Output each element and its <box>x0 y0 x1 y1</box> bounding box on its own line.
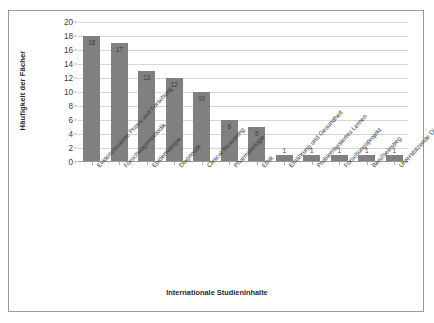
y-axis-tick-label: 2 <box>68 144 73 153</box>
bar-value-label: 6 <box>221 123 238 130</box>
y-axis-tick-label: 12 <box>64 74 73 83</box>
bar-value-label: 1 <box>276 147 293 154</box>
x-axis-title: Internationale Studieninhalte <box>0 288 434 297</box>
x-axis-tick-label: Clinical Reasoning <box>205 164 210 169</box>
plot-area: 02468101214161820 18171312106511111 <box>78 22 408 162</box>
y-axis-tick-mark <box>74 148 77 149</box>
x-axis-tick-label: Unterstützende Dienstleistung <box>397 164 402 169</box>
y-axis-tick-mark <box>74 162 77 163</box>
y-axis-tick-label: 20 <box>64 18 73 27</box>
bar-value-label: 13 <box>138 74 155 81</box>
y-axis-title: Häufigkeit der Fächer <box>18 31 27 151</box>
x-axis-tick-label: Forschungsprojekt <box>342 164 347 169</box>
y-axis-tick-label: 18 <box>64 32 73 41</box>
x-axis-tick-label: Evidenzbasierte Praxis und Forschung <box>95 164 100 169</box>
bar-value-label: 10 <box>193 95 210 102</box>
bar[interactable]: 18 <box>83 36 100 162</box>
x-axis-tick-labels: Evidenzbasierte Praxis und ForschungFors… <box>78 164 408 282</box>
x-axis-tick-label: Ernährung und Gesundheit <box>287 164 292 169</box>
y-axis-tick-label: 14 <box>64 60 73 69</box>
y-axis-tick-label: 16 <box>64 46 73 55</box>
bar-slot: 1 <box>271 22 299 162</box>
y-axis-tick-label: 6 <box>68 116 73 125</box>
x-axis-tick-label: Berufseinstieg <box>370 164 375 169</box>
y-axis-tick-mark <box>74 120 77 121</box>
y-axis-tick-label: 10 <box>64 88 73 97</box>
y-axis-tick-mark <box>74 92 77 93</box>
bar-value-label: 17 <box>111 46 128 53</box>
bar-slot: 10 <box>188 22 216 162</box>
bar-value-label: 18 <box>83 39 100 46</box>
x-axis-tick-label: Pharmakologie <box>232 164 237 169</box>
y-axis-tick-mark <box>74 106 77 107</box>
y-axis-tick-label: 4 <box>68 130 73 139</box>
y-axis-tick-mark <box>74 50 77 51</box>
x-axis-tick-label: Problembasiertes Lernen <box>315 164 320 169</box>
x-axis-tick-label: Ethik <box>260 164 265 169</box>
x-axis-tick-label: Forschungsmethodik <box>122 164 127 169</box>
bar-series: 18171312106511111 <box>78 22 408 162</box>
bar-slot: 18 <box>78 22 106 162</box>
chart-figure: Häufigkeit der Fächer 02468101214161820 … <box>0 0 434 323</box>
y-axis-tick-mark <box>74 78 77 79</box>
y-axis-tick-mark <box>74 134 77 135</box>
y-axis-tick-mark <box>74 22 77 23</box>
y-axis-tick-label: 8 <box>68 102 73 111</box>
y-axis-tick-label: 0 <box>68 158 73 167</box>
x-axis-tick-label: Diagnostik <box>177 164 182 169</box>
y-axis-tick-mark <box>74 36 77 37</box>
y-axis-tick-mark <box>74 64 77 65</box>
x-axis-tick-label: Epidemiologie <box>150 164 155 169</box>
